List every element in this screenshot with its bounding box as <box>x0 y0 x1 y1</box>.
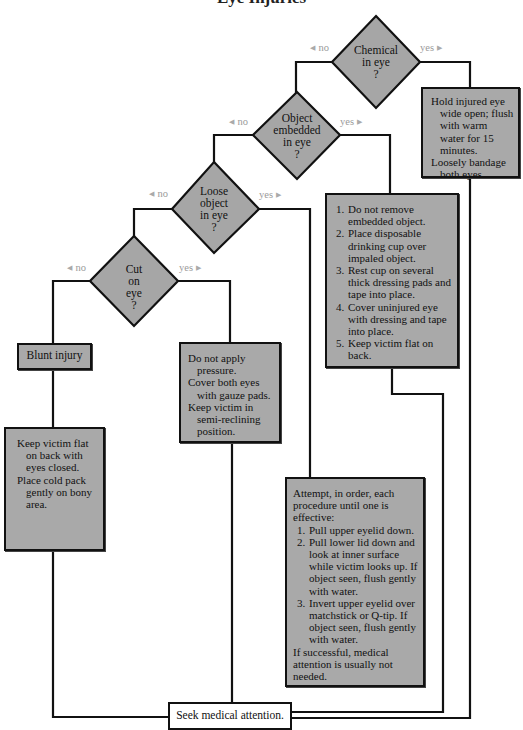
branch-no-cut: no <box>67 262 86 273</box>
text-line: in eye <box>184 209 244 221</box>
text-line: ? <box>262 148 332 160</box>
seek-medical-attention-label: Seek medical attention. <box>176 709 284 721</box>
step-item: Cover uninjured eye with dressing and ta… <box>347 301 453 338</box>
text-line: ? <box>109 299 159 311</box>
text-line: embedded <box>262 124 332 136</box>
text-line: in eye <box>262 136 332 148</box>
branch-yes-loose: yes <box>259 189 281 200</box>
instruction-text: Keep victim flat on back with eyes close… <box>17 437 99 474</box>
instruction-outro: If successful, medical attention is usua… <box>293 646 419 683</box>
step-item: Place disposable drinking cup over impal… <box>347 227 453 264</box>
text-line: object <box>184 197 244 209</box>
blunt-injury-label: Blunt injury <box>27 349 83 361</box>
seek-medical-attention-box: Seek medical attention. <box>168 702 292 730</box>
step-item: Rest cup on several thick dressing pads … <box>347 264 453 301</box>
text-line: Chemical <box>346 44 406 56</box>
step-item: Pull upper eyelid down. <box>308 524 419 536</box>
text-line: Object <box>262 112 332 124</box>
branch-yes-chemical: yes <box>420 42 442 53</box>
step-item: Invert upper eyelid over matchstick or Q… <box>308 597 419 646</box>
branch-no-loose: no <box>149 188 168 199</box>
text-line: ? <box>184 221 244 233</box>
instruction-text: Loosely bandage both eyes. <box>431 156 514 180</box>
branch-yes-cut: yes <box>179 262 201 273</box>
branch-no-embedded: no <box>229 116 248 127</box>
decision-embedded-label: Object embedded in eye ? <box>262 112 332 160</box>
decision-cut-label: Cut on eye ? <box>109 263 159 311</box>
action-loose-object: Attempt, in order, each procedure until … <box>285 477 425 687</box>
instruction-text: Keep victim in semi-reclining position. <box>188 401 275 438</box>
text-line: Loose <box>184 185 244 197</box>
text-line: ? <box>346 68 406 80</box>
action-cut-eye: Do not apply pressure. Cover both eyes w… <box>179 342 281 443</box>
text-line: Cut <box>109 263 159 275</box>
decision-chemical-label: Chemical in eye ? <box>346 44 406 80</box>
instruction-intro: Attempt, in order, each procedure until … <box>293 487 419 524</box>
branch-no-chemical: no <box>310 42 329 53</box>
action-blunt-care: Keep victim flat on back with eyes close… <box>4 427 105 551</box>
step-item: Keep victim flat on back. <box>347 337 453 361</box>
instruction-text: Place cold pack gently on bony area. <box>17 474 99 511</box>
action-embedded-object: Do not remove embedded object. Place dis… <box>325 193 459 368</box>
step-item: Pull lower lid down and look at inner su… <box>308 536 419 597</box>
action-chemical-flush: Hold injured eye wide open; flush with w… <box>421 87 520 178</box>
text-line: on <box>109 275 159 287</box>
text-line: eye <box>109 287 159 299</box>
blunt-injury-box: Blunt injury <box>17 343 92 370</box>
branch-yes-embedded: yes <box>340 116 362 127</box>
instruction-text: Do not apply pressure. <box>188 352 275 376</box>
instruction-text: Cover both eyes with gauze pads. <box>188 376 275 400</box>
step-item: Do not remove embedded object. <box>347 203 453 227</box>
decision-loose-label: Loose object in eye ? <box>184 185 244 233</box>
instruction-text: Hold injured eye wide open; flush with w… <box>431 95 514 156</box>
text-line: in eye <box>346 56 406 68</box>
